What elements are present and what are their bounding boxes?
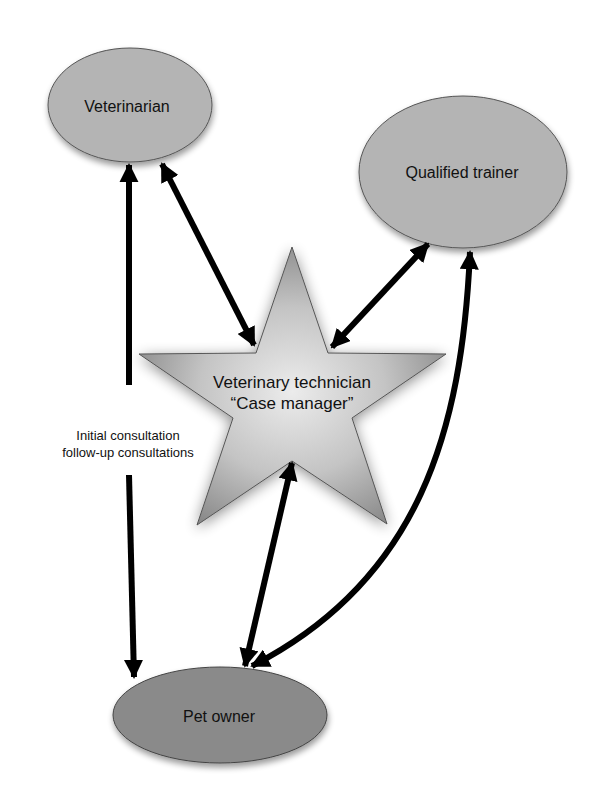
qualified-trainer-label: Qualified trainer xyxy=(406,164,520,181)
edge-label-consultation-line2: follow-up consultations xyxy=(62,445,194,460)
pet-owner-label: Pet owner xyxy=(183,708,256,725)
edge-veterinarian-pet-owner-bottom xyxy=(129,475,134,677)
diagram-canvas: Veterinarian Qualified trainer Pet owner… xyxy=(0,0,598,794)
edge-trainer-vet-tech xyxy=(332,244,428,347)
edge-label-consultation-line1: Initial consultation xyxy=(76,428,179,443)
vet-tech-label-line1: Veterinary technician xyxy=(213,373,371,392)
veterinarian-label: Veterinarian xyxy=(84,98,169,115)
edge-vet-tech-pet-owner xyxy=(245,463,292,666)
edge-veterinarian-vet-tech xyxy=(162,164,254,345)
vet-tech-label-line2: “Case manager” xyxy=(231,394,354,413)
